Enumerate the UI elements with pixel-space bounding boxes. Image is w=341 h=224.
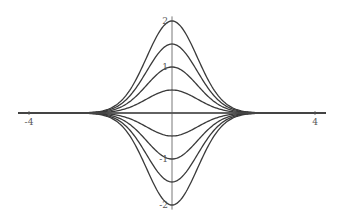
gaussian-family-chart: -4421-1-2 <box>0 0 341 224</box>
x-tick-label: 4 <box>312 117 318 127</box>
y-tick-label: -1 <box>159 154 168 164</box>
x-tick-label: -4 <box>25 117 34 127</box>
y-tick-label: 1 <box>162 62 168 72</box>
y-tick-label: 2 <box>162 16 168 26</box>
y-tick-label: -2 <box>159 200 168 210</box>
